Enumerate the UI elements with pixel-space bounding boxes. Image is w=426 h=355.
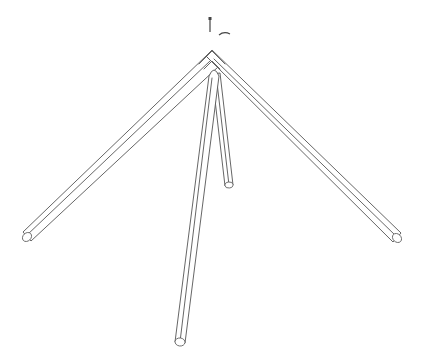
dash-mark-icon	[219, 33, 230, 35]
short-pole-end-cap	[225, 182, 234, 189]
center-pole-long	[175, 70, 219, 347]
screw-icon	[209, 17, 212, 32]
tripod-frame-diagram	[0, 0, 426, 355]
left-pole	[21, 56, 218, 243]
right-pole	[206, 50, 403, 244]
